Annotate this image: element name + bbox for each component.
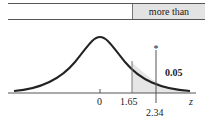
- tick-label-1-65: 1.65: [120, 96, 138, 107]
- normal-curve-diagram: * 0.05 0 1.65 2.34 z: [0, 0, 205, 124]
- tick-label-2-34: 2.34: [146, 107, 164, 118]
- star-marker: *: [154, 43, 159, 54]
- tick-label-0: 0: [97, 96, 102, 107]
- tail-area-label: 0.05: [165, 67, 183, 78]
- axis-label-z: z: [188, 96, 193, 107]
- bell-curve: [14, 37, 190, 91]
